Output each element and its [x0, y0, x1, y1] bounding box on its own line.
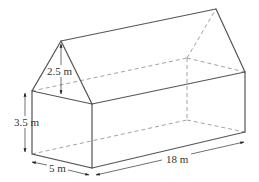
hidden-edge-back-roof-left	[187, 9, 216, 58]
dimension-wall-height: 3.5 m	[14, 93, 40, 152]
dimension-length: 18 m	[96, 142, 244, 175]
length-label: 18 m	[166, 153, 189, 165]
right-eave-edge	[92, 72, 245, 104]
house-prism-diagram: 2.5 m 3.5 m 5 m 18 m	[0, 0, 259, 182]
hidden-edge-back-left-bottom	[32, 120, 187, 154]
dimension-roof-height: 2.5 m	[47, 44, 73, 94]
width-label: 5 m	[49, 162, 66, 174]
hidden-edge-back-bottom	[187, 120, 245, 132]
hidden-edge-back-eave	[187, 58, 245, 72]
roof-height-label: 2.5 m	[47, 65, 73, 77]
back-roof-right-edge	[216, 9, 245, 72]
front-eave-edge	[32, 91, 92, 104]
visible-edges	[32, 9, 245, 168]
dimension-width: 5 m	[32, 162, 89, 175]
wall-height-label: 3.5 m	[14, 116, 40, 128]
hidden-edges	[32, 9, 245, 154]
roof-ridge-edge	[61, 9, 216, 41]
front-gable-face	[32, 41, 92, 168]
